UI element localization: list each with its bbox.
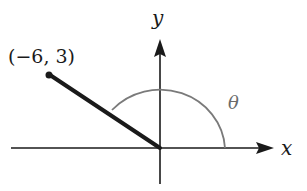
angle-diagram: x y θ (−6, 3): [0, 0, 307, 191]
x-axis: [11, 142, 274, 154]
y-axis-label: y: [151, 6, 164, 30]
y-axis: [154, 39, 166, 184]
angle-arc: [112, 90, 225, 148]
angle-label: θ: [228, 92, 239, 113]
point-label: (−6, 3): [8, 45, 75, 67]
terminal-side: [50, 75, 160, 148]
point-marker: [46, 72, 53, 79]
x-axis-label: x: [281, 136, 292, 160]
